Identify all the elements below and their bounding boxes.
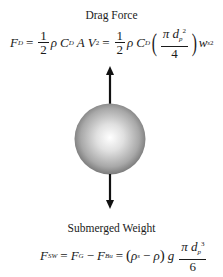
subscript-Bu: Bu (105, 252, 113, 260)
subscript-G: G (79, 252, 84, 260)
right-paren: ) (160, 247, 165, 264)
symbol-g: g (168, 248, 175, 264)
minus-sign: − (143, 248, 150, 264)
drag-force-arrow (106, 66, 114, 104)
fraction-volume: π dp3 6 (179, 238, 206, 273)
numerator: π dp3 (179, 238, 206, 260)
symbol-F: F (97, 248, 105, 264)
minus-sign: − (87, 248, 94, 264)
equals-sign: = (60, 248, 67, 264)
submerged-weight-arrow (106, 174, 114, 209)
particle-force-figure (0, 0, 223, 277)
submerged-weight-equation: FSW = FG − FBu = ( ρs − ρ ) g π dp3 6 (40, 238, 208, 273)
superscript-3: 3 (201, 240, 205, 248)
symbol-F: F (71, 248, 79, 264)
denominator: 6 (190, 260, 197, 273)
symbol-pi: π (181, 239, 188, 254)
subscript-s: s (137, 252, 140, 260)
submerged-weight-title: Submerged Weight (0, 222, 223, 234)
symbol-F: F (40, 248, 48, 264)
subscript-p: p (197, 248, 201, 256)
particle-sphere (75, 104, 146, 175)
subscript-SW: SW (48, 252, 57, 260)
equals-sign: = (116, 248, 123, 264)
